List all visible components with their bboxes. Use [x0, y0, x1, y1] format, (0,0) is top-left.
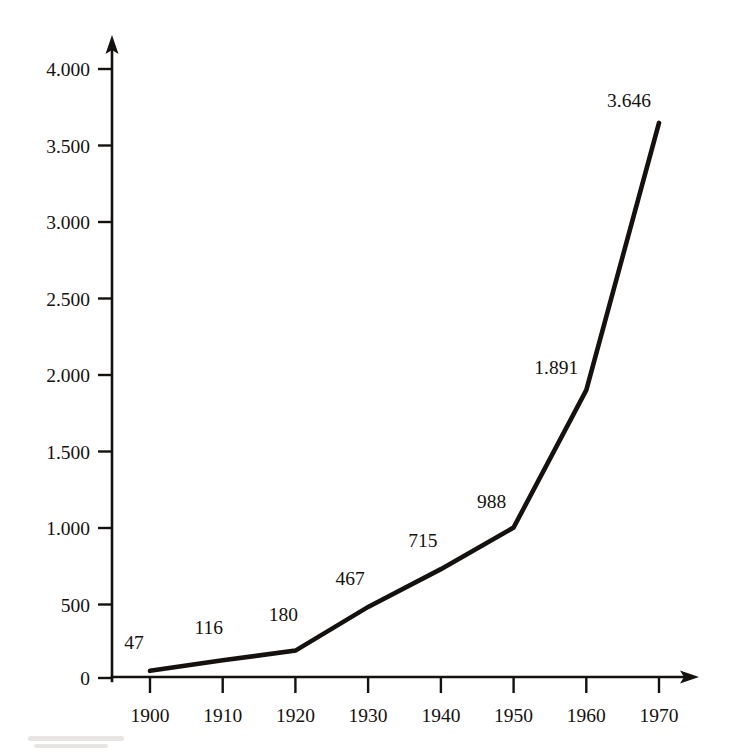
data-point-label: 467	[336, 568, 366, 589]
x-tick-label: 1910	[203, 705, 242, 726]
x-tick-label: 1900	[131, 705, 170, 726]
y-tick-label: 2.500	[46, 289, 90, 310]
y-tick-label: 0	[80, 668, 90, 689]
y-tick-labels: 4.000 3.500 3.000 2.500 2.000 1.500 1.00…	[46, 59, 90, 689]
x-tick-label: 1940	[421, 705, 460, 726]
x-axis	[112, 671, 699, 684]
data-point-labels: 471161804677159881.8913.646	[124, 90, 651, 653]
x-tick-label: 1960	[567, 705, 606, 726]
x-tick-label: 1920	[276, 705, 315, 726]
data-point-label: 116	[194, 617, 223, 638]
y-tick-label: 500	[61, 595, 90, 616]
x-tick-label: 1970	[640, 705, 679, 726]
y-axis	[106, 35, 119, 681]
data-point-label: 988	[477, 491, 506, 512]
scan-artifact	[28, 736, 124, 748]
x-tick-label: 1950	[494, 705, 533, 726]
y-tick-marks	[98, 69, 112, 678]
data-point-label: 47	[124, 632, 144, 653]
y-tick-label: 4.000	[46, 59, 90, 80]
data-point-label: 3.646	[607, 90, 651, 111]
data-point-label: 715	[408, 530, 437, 551]
x-tick-marks	[150, 677, 659, 693]
y-tick-label: 3.500	[46, 136, 90, 157]
y-tick-label: 1.500	[46, 442, 90, 463]
data-line-series	[150, 123, 659, 671]
y-tick-label: 1.000	[46, 518, 90, 539]
x-tick-label: 1930	[349, 705, 388, 726]
data-point-label: 180	[269, 604, 298, 625]
y-tick-label: 2.000	[46, 365, 90, 386]
x-tick-labels: 1900 1910 1920 1930 1940 1950 1960 1970	[131, 705, 679, 726]
line-chart: 4.000 3.500 3.000 2.500 2.000 1.500 1.00…	[0, 0, 736, 754]
chart-canvas: 4.000 3.500 3.000 2.500 2.000 1.500 1.00…	[0, 0, 736, 754]
y-tick-label: 3.000	[46, 212, 90, 233]
data-point-label: 1.891	[534, 357, 578, 378]
